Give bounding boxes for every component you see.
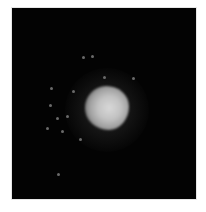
speck [56, 117, 59, 120]
speck [46, 127, 49, 130]
speck [132, 77, 135, 80]
speck [66, 115, 69, 118]
speck [61, 130, 64, 133]
microscopy-image [12, 8, 196, 199]
speck [91, 55, 94, 58]
speck [49, 104, 52, 107]
speck [57, 173, 60, 176]
speck [50, 87, 53, 90]
speck [103, 76, 106, 79]
bright-blob [85, 86, 129, 130]
speck [72, 90, 75, 93]
speck [79, 138, 82, 141]
speck [82, 56, 85, 59]
